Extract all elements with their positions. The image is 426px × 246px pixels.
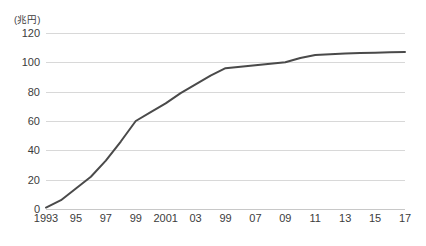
series-line-chart [46,33,405,209]
x-tick-label-11: 11 [310,213,321,224]
x-tick-label-99: 99 [219,213,231,224]
y-tick-label-80: 80 [0,86,40,97]
y-tick-label-20: 20 [0,174,40,185]
x-tick-label-15: 15 [369,213,381,224]
x-tick-label-17: 17 [399,213,411,224]
x-tick-label-09: 09 [279,213,291,224]
y-tick-label-40: 40 [0,145,40,156]
y-axis-tick-labels: 020406080100120 [0,33,40,209]
x-tick-label-07: 07 [249,213,261,224]
y-tick-label-60: 60 [0,116,40,127]
x-tick-label-95: 95 [70,213,82,224]
chart-container: (兆円) 020406080100120 1993959799200103990… [0,0,426,246]
y-tick-label-100: 100 [0,57,40,68]
gridline-0 [46,209,405,210]
x-tick-label-1993: 1993 [34,213,58,224]
plot-area [46,33,405,209]
y-axis-unit-label: (兆円) [14,12,40,26]
x-axis-tick-labels: 199395979920010399070911131517 [46,213,405,233]
x-tick-label-97: 97 [100,213,112,224]
x-tick-label-99: 99 [130,213,142,224]
x-tick-label-13: 13 [339,213,351,224]
y-tick-label-120: 120 [0,28,40,39]
x-tick-label-03: 03 [189,213,201,224]
x-tick-label-2001: 2001 [153,213,177,224]
series-line-path [46,52,405,207]
